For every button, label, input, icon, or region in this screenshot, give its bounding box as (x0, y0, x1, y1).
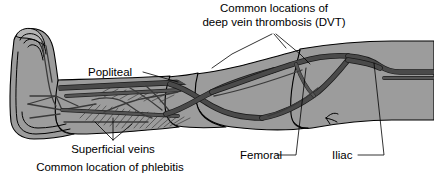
label-superficial-line1: Superficial veins (71, 143, 155, 155)
label-dvt-line2: deep vein thrombosis (DVT) (202, 16, 345, 28)
label-dvt-line1: Common locations of (220, 2, 329, 14)
label-superficial-line2: Common location of phlebitis (36, 161, 184, 173)
label-femoral: Femoral (240, 149, 282, 161)
label-iliac: Iliac (332, 149, 353, 161)
venous-anatomy-figure: Common locations of deep vein thrombosis… (0, 0, 434, 179)
hip-region (289, 41, 434, 128)
label-popliteal: Popliteal (88, 66, 132, 78)
anatomy-illustration: Common locations of deep vein thrombosis… (0, 0, 434, 179)
